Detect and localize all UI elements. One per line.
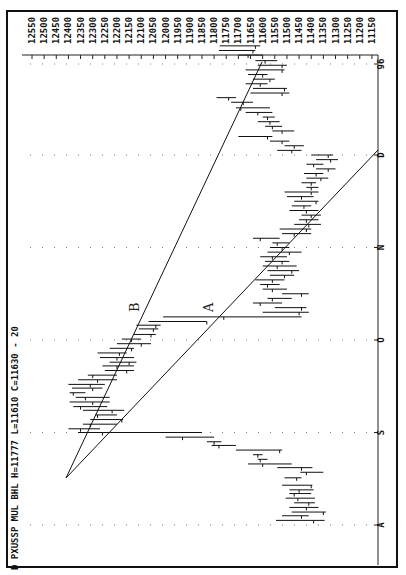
price-tick-label: 12350 [76,17,86,44]
price-tick-label: 12450 [51,17,61,44]
price-tick-label: 11600 [258,17,268,44]
time-gridlines [30,64,378,525]
price-tick-label: 11500 [282,17,292,44]
price-bars [68,46,338,524]
trendline-label-b: B [127,302,142,312]
price-tick-label: 12150 [124,17,134,44]
chart-header-text: D PXUSSP MUL BHL H=11777 L=11610 C=11630… [10,326,20,570]
time-tick-label: D [376,152,386,158]
trendlines: AB [66,62,378,478]
price-tick-label: 11850 [197,17,207,44]
price-axis [22,55,378,565]
time-tick-label: A [376,522,386,528]
price-tick-label: 11150 [367,17,377,44]
price-tick-label: 11350 [318,17,328,44]
price-tick-label: 11800 [209,17,219,44]
time-tick-label: S [376,430,386,435]
price-tick-label: 11550 [270,17,280,44]
time-tick-label: O [376,337,386,343]
rotated-price-chart: 1255012500124501240012350123001225012200… [0,0,406,575]
price-tick-label: 11400 [306,17,316,44]
price-tick-label: 12250 [100,17,110,44]
price-tick-label: 12100 [136,17,146,44]
time-tick-label: N [376,245,386,250]
price-tick-label: 11900 [185,17,195,44]
trendline-label-a: A [201,302,216,313]
price-tick-label: 12400 [63,17,73,44]
price-tick-label: 11200 [355,17,365,44]
price-tick-label: 12000 [161,17,171,44]
price-tick-label: 11650 [246,17,256,44]
price-tick-label: 11450 [294,17,304,44]
price-tick-label: 11950 [173,17,183,44]
price-tick-label: 12200 [112,17,122,44]
price-tick-label: 12500 [39,17,49,44]
price-tick-label: 12300 [88,17,98,44]
chart-header: D PXUSSP MUL BHL H=11777 L=11610 C=11630… [10,326,20,570]
price-tick-label: 11750 [221,17,231,44]
price-tick-label: 12550 [27,17,37,44]
price-tick-label: 11300 [331,17,341,44]
price-tick-label: 12050 [148,17,158,44]
price-axis-labels: 1255012500124501240012350123001225012200… [27,17,377,44]
price-tick-label: 11250 [343,17,353,44]
price-tick-label: 11700 [233,17,243,44]
time-tick-label: 96 [376,59,386,70]
